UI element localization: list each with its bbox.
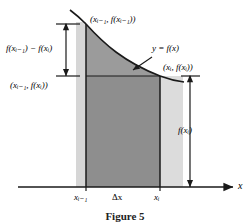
label-left-point: (xᵢ₋₁, f(xᵢ)) — [10, 81, 48, 90]
axis-label-x: x — [238, 181, 242, 191]
label-right-height: f(xᵢ) — [178, 126, 192, 135]
x-tick-label-left: xᵢ₋₁ — [74, 193, 87, 202]
x-tick-label-right: xᵢ — [154, 193, 159, 202]
curve-region-fill — [86, 24, 160, 76]
figure-container: (xᵢ₋₁, f(xᵢ₋₁)) y = f(x) (xᵢ, f(xᵢ)) f(x… — [0, 0, 250, 222]
inscribed-rectangle — [86, 76, 160, 187]
interval-width-label: Δx — [112, 193, 122, 202]
label-height-difference: f(xᵢ₋₁) − f(xᵢ) — [6, 44, 52, 53]
left-shaded-band — [76, 22, 86, 187]
figure-caption: Figure 5 — [0, 210, 250, 222]
label-right-point: (xᵢ, f(xᵢ)) — [163, 63, 193, 72]
label-curve: y = f(x) — [152, 44, 179, 53]
figure-graphic — [0, 0, 250, 222]
label-top-point: (xᵢ₋₁, f(xᵢ₋₁)) — [90, 15, 136, 24]
